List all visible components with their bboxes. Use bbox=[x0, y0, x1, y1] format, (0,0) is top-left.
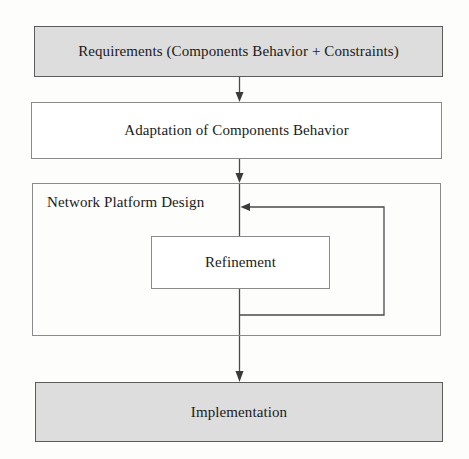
edge-requirements-to-adaptation bbox=[236, 77, 244, 102]
node-network-platform-design-label: Network Platform Design bbox=[47, 194, 204, 211]
edge-network-to-implementation bbox=[236, 336, 244, 382]
node-implementation-label: Implementation bbox=[191, 404, 287, 421]
node-implementation[interactable]: Implementation bbox=[35, 382, 443, 442]
node-adaptation-of-components-behavior[interactable]: Adaptation of Components Behavior bbox=[31, 102, 442, 159]
diagram-canvas: Requirements (Components Behavior + Cons… bbox=[0, 0, 469, 459]
node-adaptation-label: Adaptation of Components Behavior bbox=[124, 122, 349, 139]
node-requirements[interactable]: Requirements (Components Behavior + Cons… bbox=[34, 26, 443, 77]
node-refinement-label: Refinement bbox=[205, 254, 276, 271]
node-refinement[interactable]: Refinement bbox=[151, 236, 330, 289]
node-requirements-label: Requirements (Components Behavior + Cons… bbox=[78, 43, 399, 60]
edge-adaptation-to-network bbox=[236, 159, 244, 183]
